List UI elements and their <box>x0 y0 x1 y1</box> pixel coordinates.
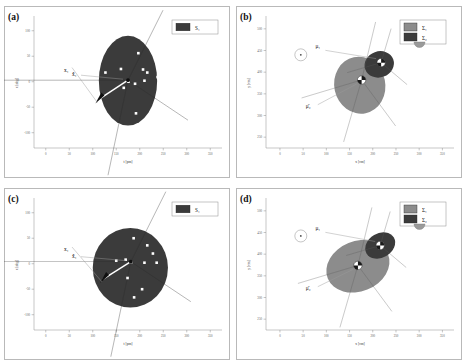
svg-text:y [cm]: y [cm] <box>247 78 251 87</box>
svg-text:450: 450 <box>257 231 262 235</box>
svg-text:x [cm]: x [cm] <box>355 342 364 346</box>
sample-point <box>104 71 107 74</box>
svg-text:200: 200 <box>137 152 142 156</box>
legend-sigma1 <box>404 205 417 213</box>
sample-point <box>152 252 155 255</box>
svg-text:100: 100 <box>90 334 95 338</box>
svg-text:0: 0 <box>279 152 281 156</box>
svg-text:250: 250 <box>161 334 166 338</box>
svg-text:0: 0 <box>45 152 47 156</box>
svg-text:t [pm]: t [pm] <box>124 160 133 164</box>
legend-label-s1: S₁ <box>195 25 200 31</box>
svg-text:t [pm]: t [pm] <box>124 342 133 346</box>
svg-text:300: 300 <box>417 334 422 338</box>
svg-text:300: 300 <box>184 334 189 338</box>
sample-point <box>146 71 149 74</box>
sample-point <box>126 277 129 280</box>
sample-point <box>135 112 138 115</box>
svg-text:300: 300 <box>417 152 422 156</box>
plot-b: 050100150200250300350250300350400450500x… <box>236 6 462 178</box>
svg-text:250: 250 <box>257 317 262 321</box>
svg-text:300: 300 <box>184 152 189 156</box>
legend-label-2: Σ₂ <box>422 35 427 41</box>
svg-text:200: 200 <box>370 152 375 156</box>
sample-point <box>132 237 135 240</box>
svg-text:50: 50 <box>27 236 31 240</box>
mu2-label: μ̄₂ <box>306 285 311 291</box>
svg-text:50: 50 <box>27 54 31 58</box>
svg-text:-50: -50 <box>26 105 31 109</box>
svg-text:350: 350 <box>440 334 445 338</box>
legend-label-1: Σ₁ <box>422 207 427 213</box>
sample-point <box>137 52 140 55</box>
legend-sigma2 <box>404 33 417 41</box>
plot-a: 050100150200250300350100500-50-100t [pm]… <box>4 6 230 178</box>
svg-text:50: 50 <box>302 152 306 156</box>
svg-text:0: 0 <box>279 334 281 338</box>
figure-root: (a)050100150200250300350100500-50-100t [… <box>0 0 467 364</box>
svg-text:400: 400 <box>257 70 262 74</box>
estimate-label: x̂₁ <box>72 71 77 77</box>
sample-point <box>93 70 96 73</box>
svg-text:100: 100 <box>324 334 329 338</box>
legend-sigma2 <box>404 215 417 223</box>
legend-label-s1: S₁ <box>195 207 200 213</box>
svg-text:350: 350 <box>257 92 262 96</box>
mu1-label: μ₁ <box>315 43 320 49</box>
svg-text:100: 100 <box>324 152 329 156</box>
sample-point <box>120 68 123 71</box>
svg-text:0: 0 <box>28 262 30 266</box>
svg-text:400: 400 <box>257 252 262 256</box>
svg-text:350: 350 <box>257 274 262 278</box>
svg-text:-100: -100 <box>24 313 30 317</box>
svg-text:300: 300 <box>257 114 262 118</box>
svg-text:300: 300 <box>257 296 262 300</box>
mu1-label: μ₁ <box>315 225 320 231</box>
svg-text:200: 200 <box>370 334 375 338</box>
svg-text:-50: -50 <box>26 287 31 291</box>
sample-point <box>156 76 159 79</box>
svg-text:250: 250 <box>394 334 399 338</box>
sample-point <box>146 244 149 247</box>
sample-point <box>122 87 125 90</box>
sample-point <box>142 68 145 71</box>
legend-label-2: Σ₂ <box>422 217 427 223</box>
legend-label-1: Σ₁ <box>422 25 427 31</box>
svg-text:150: 150 <box>114 152 119 156</box>
svg-text:50: 50 <box>68 334 72 338</box>
sample-point <box>143 261 146 264</box>
legend-set-s1 <box>176 205 190 213</box>
svg-text:450: 450 <box>257 49 262 53</box>
svg-text:0: 0 <box>45 334 47 338</box>
estimate-label: x̂₁ <box>72 253 77 259</box>
legend-sigma1 <box>404 23 417 31</box>
svg-text:350: 350 <box>208 152 213 156</box>
svg-text:150: 150 <box>347 334 352 338</box>
svg-text:100: 100 <box>25 29 30 33</box>
svg-text:250: 250 <box>257 135 262 139</box>
legend-set-s1 <box>176 23 190 31</box>
sample-point <box>155 261 158 264</box>
svg-text:500: 500 <box>257 27 262 31</box>
svg-text:250: 250 <box>161 152 166 156</box>
sample-point <box>141 288 144 291</box>
svg-text:x [deg]: x [deg] <box>15 78 19 88</box>
svg-text:100: 100 <box>25 211 30 215</box>
svg-text:500: 500 <box>257 209 262 213</box>
svg-text:100: 100 <box>90 152 95 156</box>
svg-text:x [cm]: x [cm] <box>355 160 364 164</box>
svg-text:x [deg]: x [deg] <box>15 260 19 270</box>
plot-d: 050100150200250300350250300350400450500x… <box>236 188 462 360</box>
sample-point <box>133 296 136 299</box>
svg-text:200: 200 <box>137 334 142 338</box>
svg-text:50: 50 <box>68 152 72 156</box>
svg-text:150: 150 <box>347 152 352 156</box>
plot-c: 050100150200250300350100500-50-100t [pm]… <box>4 188 230 360</box>
svg-text:250: 250 <box>394 152 399 156</box>
truth-label: x₁ <box>64 67 69 73</box>
mu2-label: μ̄₂ <box>306 103 311 109</box>
sample-point <box>143 79 146 82</box>
svg-text:50: 50 <box>302 334 306 338</box>
sample-point <box>134 82 137 85</box>
svg-text:0: 0 <box>28 80 30 84</box>
